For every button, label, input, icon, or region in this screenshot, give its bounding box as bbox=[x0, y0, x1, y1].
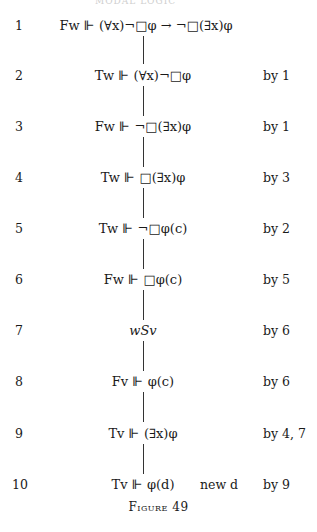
tableau-edge bbox=[143, 341, 144, 371]
justification: by 2 bbox=[263, 221, 290, 236]
justification: by 1 bbox=[263, 119, 290, 134]
tableau-row: 3 Fw ⊩ ¬□(∃x)φ by 1 bbox=[0, 119, 317, 137]
tableau-row: 1 Fw ⊩ (∀x)¬□φ → ¬□(∃x)φ bbox=[0, 18, 317, 36]
formula: Fw ⊩ (∀x)¬□φ → ¬□(∃x)φ bbox=[26, 18, 266, 33]
line-number: 4 bbox=[15, 170, 35, 185]
tableau-edge bbox=[143, 290, 144, 320]
tableau-row: 10 Tv ⊩ φ(d) new d by 9 bbox=[0, 477, 317, 495]
tableau-row: 8 Fv ⊩ φ(c) by 6 bbox=[0, 374, 317, 392]
tableau-edge bbox=[143, 86, 144, 116]
tableau-edge bbox=[143, 137, 144, 167]
formula: Tv ⊩ (∃x)φ bbox=[48, 426, 238, 441]
justification: by 6 bbox=[263, 374, 290, 389]
formula: Tw ⊩ (∀x)¬□φ bbox=[48, 68, 238, 83]
justification: by 3 bbox=[263, 170, 290, 185]
formula: Fw ⊩ □φ(c) bbox=[48, 272, 238, 287]
tableau-row: 9 Tv ⊩ (∃x)φ by 4, 7 bbox=[0, 426, 317, 444]
formula: Tw ⊩ ¬□φ(c) bbox=[48, 221, 238, 236]
line-number: 10 bbox=[12, 477, 32, 492]
tableau-edge bbox=[143, 239, 144, 269]
line-number: 8 bbox=[15, 374, 35, 389]
line-number: 3 bbox=[15, 119, 35, 134]
tableau-edge bbox=[143, 444, 144, 474]
formula: Fw ⊩ ¬□(∃x)φ bbox=[48, 119, 238, 134]
line-number: 7 bbox=[15, 323, 35, 338]
formula: Fv ⊩ φ(c) bbox=[48, 374, 238, 389]
line-number: 6 bbox=[15, 272, 35, 287]
tableau-row: 2 Tw ⊩ (∀x)¬□φ by 1 bbox=[0, 68, 317, 86]
tableau-row: 4 Tw ⊩ □(∃x)φ by 3 bbox=[0, 170, 317, 188]
tableau-row: 5 Tw ⊩ ¬□φ(c) by 2 bbox=[0, 221, 317, 239]
line-number: 5 bbox=[15, 221, 35, 236]
formula: Tw ⊩ □(∃x)φ bbox=[48, 170, 238, 185]
line-number: 2 bbox=[15, 68, 35, 83]
tableau-edge bbox=[143, 392, 144, 422]
running-header: MODAL LOGIC bbox=[95, 0, 225, 4]
tableau-edge bbox=[143, 188, 144, 218]
tableau-edge bbox=[143, 36, 144, 64]
justification: by 9 bbox=[263, 477, 290, 492]
line-number: 9 bbox=[15, 426, 35, 441]
figure-caption: Figure 49 bbox=[0, 500, 317, 514]
tableau-row: 6 Fw ⊩ □φ(c) by 5 bbox=[0, 272, 317, 290]
justification: by 1 bbox=[263, 68, 290, 83]
justification: by 4, 7 bbox=[263, 426, 306, 441]
formula: wSv bbox=[48, 323, 238, 338]
note: new d bbox=[200, 477, 238, 492]
tableau-row: 7 wSv by 6 bbox=[0, 323, 317, 341]
justification: by 6 bbox=[263, 323, 290, 338]
justification: by 5 bbox=[263, 272, 290, 287]
